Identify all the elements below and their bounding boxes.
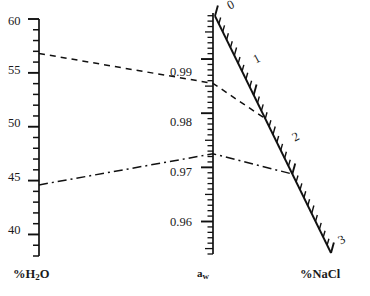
tick-mark	[269, 120, 271, 126]
tick-mark	[296, 176, 298, 182]
nomogram-figure: 6055504540 0.990.980.970.96 0123 %H2O aw…	[0, 0, 370, 296]
tick-mark	[312, 206, 314, 214]
h2o-tick-label-4: 40	[8, 224, 21, 237]
tick-mark	[227, 33, 229, 39]
aw-tick-label-3: 0.96	[170, 216, 192, 229]
tick-mark	[292, 164, 295, 174]
lower-alignment-line	[39, 154, 292, 185]
nacl-axis-group	[215, 6, 334, 253]
tick-mark	[215, 6, 218, 16]
tick-mark	[323, 231, 325, 237]
tick-mark	[304, 191, 306, 197]
h2o-tick-marks	[28, 19, 39, 256]
aw-axis-group	[201, 13, 213, 254]
tick-mark	[277, 136, 279, 142]
tick-mark	[319, 223, 321, 229]
aw-tick-label-2: 0.97	[170, 166, 192, 179]
nacl-tick-marks	[215, 6, 334, 253]
tick-mark	[273, 127, 275, 135]
tick-mark	[219, 18, 221, 24]
tick-mark	[230, 41, 232, 47]
tick-mark	[246, 73, 248, 79]
tick-mark	[288, 160, 290, 166]
tick-mark	[254, 85, 257, 95]
alignment-lines-group	[39, 53, 292, 184]
h2o-axis-caption: %H2O	[13, 268, 49, 281]
aw-tick-label-0: 0.99	[170, 66, 192, 79]
tick-mark	[265, 112, 267, 118]
nacl-axis-caption: %NaCl	[300, 268, 340, 281]
aw-tick-label-1: 0.98	[170, 116, 192, 129]
tick-mark	[223, 25, 225, 31]
tick-mark	[316, 215, 318, 221]
upper-alignment-line	[39, 53, 265, 118]
aw-caption-subscript: w	[203, 271, 210, 281]
h2o-axis-group	[28, 19, 39, 256]
tick-mark	[308, 199, 310, 205]
h2o-tick-label-2: 50	[8, 117, 21, 130]
aw-axis-caption: aw	[197, 268, 209, 279]
tick-mark	[242, 65, 244, 71]
tick-mark	[258, 97, 260, 103]
h2o-tick-label-0: 60	[8, 15, 21, 28]
h2o-tick-label-1: 55	[8, 64, 21, 77]
tick-mark	[281, 144, 283, 150]
tick-mark	[327, 239, 329, 245]
tick-mark	[261, 104, 263, 110]
tick-mark	[238, 57, 240, 63]
h2o-tick-label-3: 45	[8, 171, 21, 184]
nomogram-canvas	[0, 0, 370, 296]
tick-mark	[300, 183, 302, 189]
tick-mark	[331, 243, 334, 253]
tick-mark	[234, 48, 236, 56]
aw-tick-marks	[201, 16, 213, 254]
tick-mark	[285, 152, 287, 158]
tick-mark	[250, 81, 252, 87]
h2o-caption-subscript: 2	[35, 272, 40, 282]
